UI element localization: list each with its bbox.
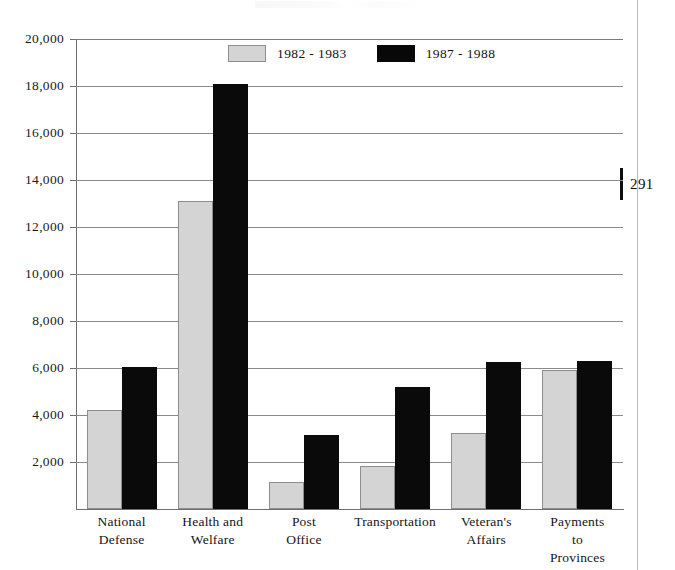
bar-series1	[269, 482, 304, 509]
plot-area	[76, 39, 623, 509]
y-axis-tick-label: 14,000	[0, 172, 64, 188]
y-axis-tick-label: 8,000	[0, 313, 64, 329]
y-axis-tick-label: 6,000	[0, 360, 64, 376]
category-label: National Defense	[98, 513, 146, 549]
bar-series1	[451, 433, 486, 509]
bar-series2	[304, 435, 339, 509]
legend-entry: 1982 - 1983	[228, 45, 347, 62]
y-axis-tick-labels: 2,0004,0006,0008,00010,00012,00014,00016…	[0, 0, 66, 570]
category-label: Veteran's Affairs	[461, 513, 512, 549]
bar-series2	[395, 387, 430, 509]
x-axis-line	[76, 509, 624, 510]
light-swatch	[228, 45, 266, 62]
legend-label: 1982 - 1983	[277, 46, 347, 62]
category-label: Transportation	[354, 513, 436, 531]
y-axis-tick-label: 4,000	[0, 407, 64, 423]
y-axis-tick-label: 20,000	[0, 31, 64, 47]
bar-series1	[360, 466, 395, 509]
legend-entry: 1987 - 1988	[377, 45, 496, 62]
bar-series2	[122, 367, 157, 509]
category-label: Post Office	[286, 513, 321, 549]
bar-series1	[178, 201, 213, 509]
bar-series2	[213, 84, 248, 509]
category-label: Payments to Provinces	[550, 513, 605, 567]
category-label: Health and Welfare	[182, 513, 243, 549]
bar-series1	[87, 410, 122, 509]
document-page: 291 2,0004,0006,0008,00010,00012,00014,0…	[0, 0, 675, 570]
bar-chart: 2,0004,0006,0008,00010,00012,00014,00016…	[0, 0, 675, 570]
bar-series2	[577, 361, 612, 509]
y-axis-tick-label: 18,000	[0, 78, 64, 94]
bar-series-container	[76, 39, 623, 509]
bar-series2	[486, 362, 521, 509]
y-axis-tick-label: 2,000	[0, 454, 64, 470]
y-axis-tick-label: 12,000	[0, 219, 64, 235]
chart-legend: 1982 - 19831987 - 1988	[228, 45, 495, 62]
y-axis-tick-label: 10,000	[0, 266, 64, 282]
dark-swatch	[377, 45, 415, 62]
y-axis-tick-label: 16,000	[0, 125, 64, 141]
legend-label: 1987 - 1988	[426, 46, 496, 62]
bar-series1	[542, 370, 577, 509]
x-axis-category-labels: National DefenseHealth and WelfarePost O…	[76, 513, 623, 569]
